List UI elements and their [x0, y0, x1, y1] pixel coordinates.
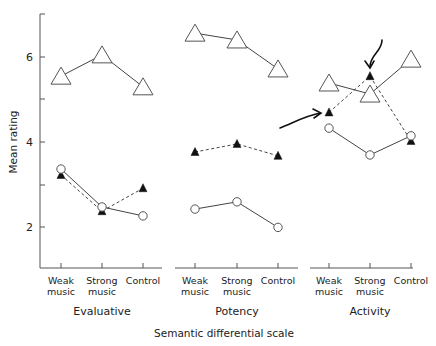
category-label: Control — [261, 275, 295, 286]
y-axis-title: Mean rating — [7, 110, 19, 173]
panel-label-evaluative: Evaluative — [73, 305, 131, 318]
category-label: Weak — [182, 275, 209, 286]
open-triangle-marker — [227, 31, 247, 48]
category-label: Weak — [48, 275, 75, 286]
category-label: music — [356, 286, 384, 297]
filled-triangle-marker — [139, 184, 147, 192]
filled-triangle-marker — [233, 139, 241, 147]
y-axis: 6 4 2 Mean rating — [7, 14, 45, 268]
y-tick-6: 6 — [26, 51, 33, 64]
open-circle-marker — [191, 205, 199, 213]
category-label: music — [88, 286, 116, 297]
category-label: Strong — [354, 275, 385, 286]
open-triangle-marker — [133, 78, 153, 95]
y-tick-4: 4 — [26, 136, 33, 149]
open-triangle-marker — [268, 60, 288, 77]
arrow-down-icon — [365, 40, 382, 68]
x-ticks — [61, 263, 411, 268]
category-labels: WeakmusicStrongmusicControlWeakmusicStro… — [47, 275, 428, 297]
category-label: music — [47, 286, 75, 297]
data-series — [51, 24, 421, 231]
open-circle-marker — [274, 223, 282, 231]
arrow-right-icon — [280, 109, 321, 128]
series-open-triangle-large — [185, 24, 288, 77]
series-filled-triangle — [325, 72, 415, 145]
category-label: Control — [394, 275, 428, 286]
x-axis-title: Semantic differential scale — [154, 327, 294, 339]
open-triangle-marker — [319, 74, 339, 91]
category-label: Control — [126, 275, 160, 286]
category-label: music — [181, 286, 209, 297]
filled-triangle-marker — [325, 108, 333, 116]
open-circle-marker — [98, 203, 106, 211]
series-open-circle — [191, 198, 282, 232]
category-label: music — [223, 286, 251, 297]
series-open-circle — [325, 124, 415, 159]
open-circle-marker — [139, 212, 147, 220]
category-label: Weak — [316, 275, 343, 286]
open-triangle-marker — [185, 24, 205, 41]
category-label: Strong — [86, 275, 117, 286]
open-circle-marker — [57, 165, 65, 173]
open-circle-marker — [366, 151, 374, 159]
series-filled-triangle — [191, 139, 282, 159]
open-circle-marker — [233, 198, 241, 206]
semantic-differential-chart: 6 4 2 Mean rating WeakmusicStrongmusicCo… — [0, 0, 436, 346]
category-label: Strong — [221, 275, 252, 286]
category-label: music — [315, 286, 343, 297]
y-tick-2: 2 — [26, 221, 33, 234]
panel-label-potency: Potency — [215, 305, 259, 318]
filled-triangle-marker — [366, 72, 374, 80]
open-triangle-marker — [51, 67, 71, 84]
series-open-triangle-large — [51, 46, 153, 95]
open-triangle-marker — [401, 50, 421, 67]
panel-label-activity: Activity — [349, 305, 391, 318]
open-triangle-marker — [92, 46, 112, 63]
open-circle-marker — [325, 124, 333, 132]
open-circle-marker — [407, 132, 415, 140]
